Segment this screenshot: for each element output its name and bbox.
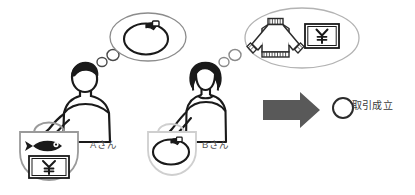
person-a-figure [40, 63, 110, 143]
barter-diagram-svg [0, 0, 415, 195]
diagram-canvas: Aさん Bさん 取引成立 [0, 0, 415, 195]
person-b-thought-bubble [245, 8, 359, 68]
result-circle-marker [333, 98, 353, 118]
person-b-figure [165, 63, 226, 143]
yen-banknote-icon-b [305, 24, 339, 48]
yen-banknote-icon-a [29, 156, 69, 178]
person-b-bag [148, 124, 196, 175]
person-a-thought-trail [97, 50, 119, 67]
person-a-thought-bubble [110, 13, 186, 61]
person-b-label: Bさん [202, 140, 229, 150]
person-b-thought-trail [219, 50, 241, 67]
person-a-bag [20, 123, 78, 181]
transaction-arrow [263, 92, 320, 128]
result-label: 取引成立 [352, 101, 393, 111]
person-a-label: Aさん [90, 140, 117, 150]
